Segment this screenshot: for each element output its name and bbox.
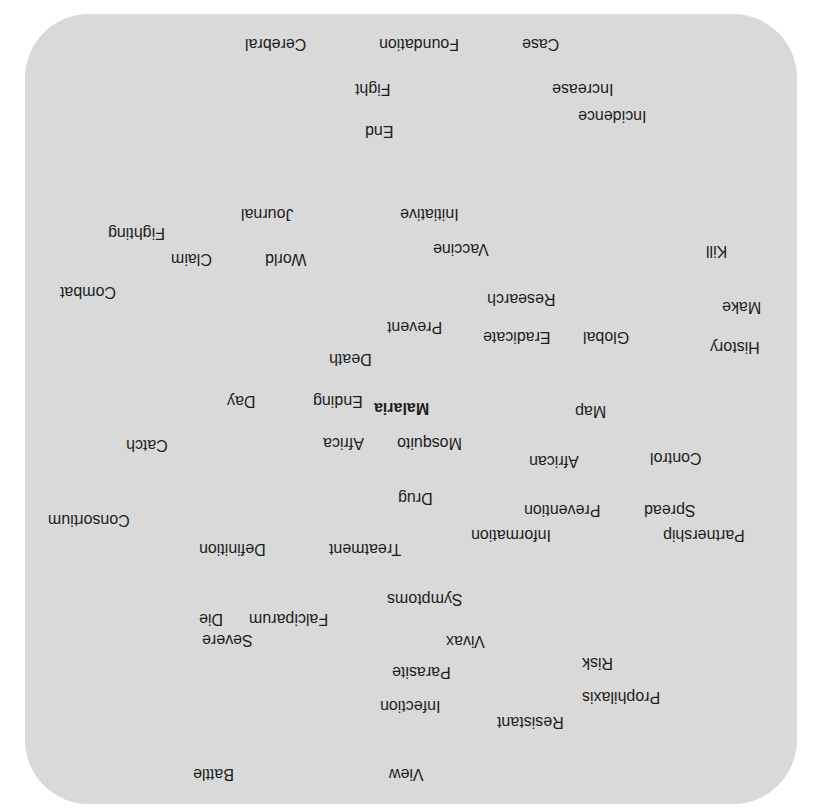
cloud-word: Control [650,449,702,467]
cloud-word: Symptoms [387,590,463,608]
cloud-word: View [389,765,423,783]
cloud-word: Cerebral [245,35,306,53]
cloud-word: Risk [582,654,613,672]
cloud-word: Parasite [392,663,451,681]
cloud-word: Resistant [497,713,564,731]
cloud-word: Kill [706,242,727,260]
cloud-word: Mosquito [397,434,462,452]
cloud-word: Catch [126,436,168,454]
cloud-word: Day [227,392,255,410]
cloud-word: Claim [171,250,212,268]
cloud-word: Partnership [663,526,745,544]
cloud-word: Prevent [387,318,442,336]
cloud-word: Drug [398,489,433,507]
cloud-word: Make [722,298,761,316]
cloud-word: Prevention [524,501,601,519]
cloud-word: Death [329,350,372,368]
cloud-word: Case [522,35,559,53]
cloud-word: Fighting [108,224,165,242]
cloud-word: Africa [323,434,364,452]
cloud-word: Prophilaxis [582,688,660,706]
cloud-word: Eradicate [483,328,551,346]
cloud-word: End [365,122,393,140]
cloud-word: Combat [60,283,116,301]
cloud-word: Journal [241,205,293,223]
focus-word: Malaria [374,399,429,417]
cloud-word: African [529,452,579,470]
cloud-word: Spread [644,501,696,519]
cloud-word: Treatment [329,540,401,558]
cloud-word: Ending [313,392,363,410]
cloud-word: World [265,250,307,268]
cloud-word: Definition [199,540,266,558]
cloud-word: Consortium [48,511,130,529]
cloud-word: Incidence [578,107,647,125]
cloud-word: Die [199,610,223,628]
cloud-word: Foundation [379,35,459,53]
cloud-word: Global [583,328,629,346]
cloud-word: Falciparum [249,610,328,628]
cloud-word: Vaccine [433,240,489,258]
cloud-word: Research [487,290,555,308]
cloud-word: Vivax [446,632,485,650]
cloud-word: Initiative [400,205,459,223]
cloud-word: History [710,338,760,356]
cloud-word: Information [471,526,551,544]
cloud-word: Map [575,402,606,420]
cloud-word: Severe [202,631,253,649]
cloud-word: Battle [193,765,234,783]
cloud-word: Fight [355,80,391,98]
cloud-word: Infection [380,697,440,715]
cloud-word: Increase [552,80,613,98]
